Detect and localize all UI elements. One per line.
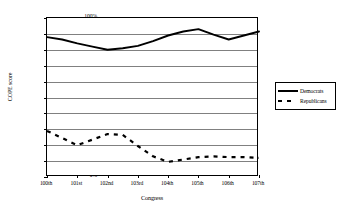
series-line-republicans bbox=[47, 131, 259, 162]
x-tick-label: 100th bbox=[40, 180, 52, 186]
x-tick-label: 103rd bbox=[131, 180, 144, 186]
x-tick-label: 102nd bbox=[100, 180, 114, 186]
chart-legend: DemocratsRepublicans bbox=[275, 82, 336, 110]
line-chart: COPE score 100%90%80%70%60%50%40%30%20%1… bbox=[0, 0, 359, 211]
x-axis-title: Congress bbox=[46, 194, 258, 201]
legend-swatch-icon bbox=[278, 87, 298, 95]
legend-item-republicans[interactable]: Republicans bbox=[278, 96, 332, 106]
legend-label: Republicans bbox=[300, 98, 327, 104]
series-lines bbox=[47, 18, 259, 177]
legend-label: Democrats bbox=[300, 88, 323, 94]
x-tick-label: 107th bbox=[252, 180, 264, 186]
legend-item-democrats[interactable]: Democrats bbox=[278, 86, 332, 96]
x-tick-label: 106th bbox=[222, 180, 234, 186]
legend-swatch-icon bbox=[278, 97, 298, 105]
series-line-democrats bbox=[47, 29, 259, 50]
y-axis-title: COPE score bbox=[7, 55, 13, 119]
x-tick-mark bbox=[259, 175, 260, 178]
plot-area bbox=[46, 17, 258, 176]
x-tick-label: 104th bbox=[161, 180, 173, 186]
x-tick-label: 101st bbox=[70, 180, 82, 186]
x-tick-label: 105th bbox=[191, 180, 203, 186]
